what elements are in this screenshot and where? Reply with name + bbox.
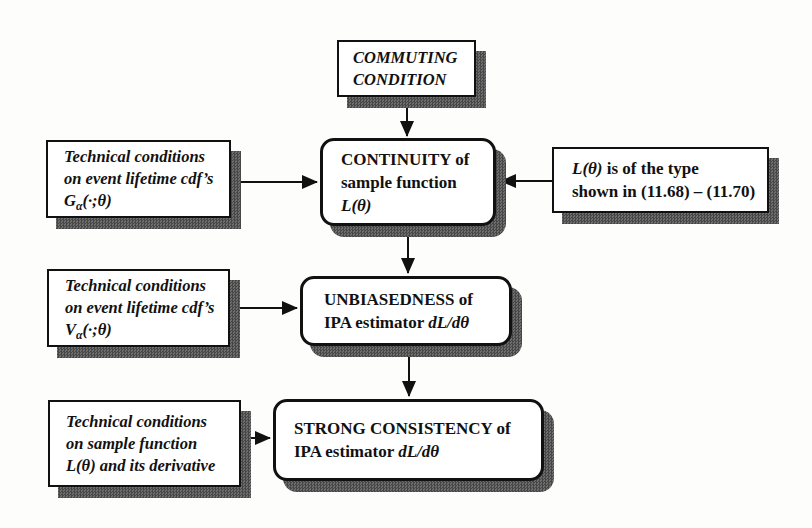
math-derivative: dL/dθ: [398, 442, 439, 461]
tech-v-math-line: Vα(·;θ): [49, 319, 228, 341]
tech-conditions-g-box: Technical conditions on event lifetime c…: [46, 140, 231, 218]
math-symbol: G: [64, 191, 76, 210]
box-face: Technical conditions on event lifetime c…: [46, 140, 231, 218]
math-subscript: α: [76, 199, 83, 213]
strong-line-2-text: IPA estimator: [294, 442, 398, 461]
box-face: Technical conditions on event lifetime c…: [47, 269, 230, 347]
type-line-1-text: is of the type: [603, 159, 699, 178]
math-symbol: V: [65, 320, 76, 339]
tech-conditions-l-box: Technical conditions on sample function …: [48, 400, 241, 487]
tech-v-line-1: Technical conditions: [49, 275, 228, 297]
tech-l-line-3: L(θ) and its derivative: [50, 455, 239, 477]
box-face: L(θ) is of the type shown in (11.68) – (…: [552, 147, 769, 213]
continuity-line-1: CONTINUITY of: [323, 148, 493, 171]
commuting-line-2: CONDITION: [339, 69, 474, 91]
tech-conditions-v-box: Technical conditions on event lifetime c…: [47, 269, 230, 347]
unbiasedness-line-2: IPA estimator dL/dθ: [303, 311, 509, 334]
box-face: STRONG CONSISTENCY of IPA estimator dL/d…: [273, 399, 544, 481]
tech-g-line-2: on event lifetime cdf’s: [48, 168, 229, 190]
type-line-1: L(θ) is of the type: [554, 157, 767, 180]
commuting-line-1: COMMUTING: [339, 47, 474, 69]
math-symbol: L(θ): [572, 159, 603, 178]
math-derivative: dL/dθ: [428, 313, 469, 332]
tech-v-line-2: on event lifetime cdf’s: [49, 297, 228, 319]
tech-g-line-1: Technical conditions: [48, 146, 229, 168]
unbiasedness-line-2-text: IPA estimator: [324, 313, 428, 332]
flowchart-diagram: COMMUTING CONDITION Technical conditions…: [0, 0, 812, 528]
continuity-box: CONTINUITY of sample function L(θ): [320, 138, 496, 226]
box-face: COMMUTING CONDITION: [337, 40, 476, 97]
type-line-2: shown in (11.68) – (11.70): [554, 180, 767, 203]
continuity-line-2: sample function: [323, 171, 493, 194]
math-args: (·;θ): [83, 320, 112, 339]
tech-l-line-2: on sample function: [50, 433, 239, 455]
strong-line-1: STRONG CONSISTENCY of: [276, 417, 541, 440]
strong-consistency-box: STRONG CONSISTENCY of IPA estimator dL/d…: [273, 399, 544, 481]
commuting-condition-box: COMMUTING CONDITION: [337, 40, 476, 97]
type-condition-box: L(θ) is of the type shown in (11.68) – (…: [552, 147, 769, 213]
unbiasedness-box: UNBIASEDNESS of IPA estimator dL/dθ: [300, 276, 512, 346]
box-face: Technical conditions on sample function …: [48, 400, 241, 487]
math-args: (·;θ): [83, 191, 112, 210]
tech-l-line-1: Technical conditions: [50, 411, 239, 433]
tech-g-math-line: Gα(·;θ): [48, 190, 229, 212]
continuity-math-line: L(θ): [323, 194, 493, 217]
box-face: UNBIASEDNESS of IPA estimator dL/dθ: [300, 276, 512, 346]
unbiasedness-line-1: UNBIASEDNESS of: [303, 288, 509, 311]
strong-line-2: IPA estimator dL/dθ: [276, 440, 541, 463]
box-face: CONTINUITY of sample function L(θ): [320, 138, 496, 226]
math-subscript: α: [76, 328, 83, 342]
